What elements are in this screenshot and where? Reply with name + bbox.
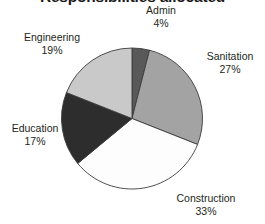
slice-label-education-name: Education: [2, 122, 68, 135]
slice-label-sanitation-name: Sanitation: [196, 50, 264, 63]
slice-label-admin-value: 4%: [128, 17, 194, 30]
slice-label-sanitation: Sanitation 27%: [196, 50, 264, 75]
pie-slices: [62, 48, 203, 189]
slice-label-construction-name: Construction: [160, 192, 252, 205]
slice-label-engineering-name: Engineering: [12, 31, 92, 44]
slice-label-engineering: Engineering 19%: [12, 31, 92, 56]
slice-label-education: Education 17%: [2, 122, 68, 147]
slice-label-sanitation-value: 27%: [196, 63, 264, 76]
pie-chart: Responsibilities allocated Admin 4% Sani…: [0, 0, 265, 224]
slice-label-admin: Admin 4%: [128, 4, 194, 29]
slice-label-construction: Construction 33%: [160, 192, 252, 217]
slice-label-admin-name: Admin: [128, 4, 194, 17]
slice-label-education-value: 17%: [2, 135, 68, 148]
slice-label-engineering-value: 19%: [12, 44, 92, 57]
slice-label-construction-value: 33%: [160, 205, 252, 218]
